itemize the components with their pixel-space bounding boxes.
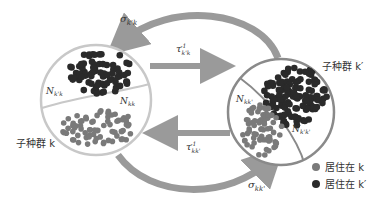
subpopulation-kprime-title: 子种群 k′	[322, 60, 364, 72]
legend: 居住在 k 居住在 k′	[312, 161, 367, 190]
subpopulation-k-title: 子种群 k	[16, 137, 55, 149]
tau-top-label: τk'k-1	[176, 42, 191, 56]
sigma-kprime-k-arrow	[122, 16, 278, 58]
legend-swatch-resident-kprime	[312, 180, 320, 188]
subpopulation-migration-diagram: σk'k τk'k-1 τkk'-1 σkk' Nk'k Nkk Nkk' Nk…	[0, 0, 379, 202]
tau-bottom-label: τkk'-1	[186, 140, 201, 154]
sigma-bottom-label: σkk'	[248, 179, 265, 193]
legend-swatch-resident-k	[312, 163, 320, 171]
subpopulation-kprime-circle	[228, 59, 334, 170]
legend-label-resident-k: 居住在 k	[325, 161, 364, 173]
sigma-top-label: σk'k	[120, 13, 137, 27]
legend-label-resident-kprime: 居住在 k′	[325, 178, 367, 190]
